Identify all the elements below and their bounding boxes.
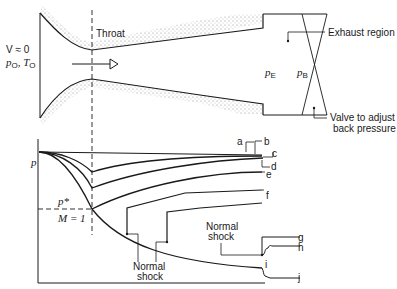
normal-shock-label2-line2: shock — [208, 231, 235, 242]
mach-label: M = 1 — [57, 212, 86, 224]
valve-label-line2: back pressure — [333, 123, 396, 134]
curve-label-h: h — [298, 242, 304, 253]
label-d-leader — [262, 160, 270, 167]
exhaust-label: Exhaust region — [328, 27, 395, 38]
curve-j — [262, 268, 300, 278]
curve-c — [39, 152, 263, 188]
curve-h — [263, 246, 300, 256]
pe-label: pE — [264, 66, 276, 80]
lower-wall-stipple — [40, 79, 263, 125]
curve-f — [127, 190, 262, 234]
pressure-graph: p p* M = 1 Normal shock Normal shock — [30, 136, 304, 283]
pstar-label: p* — [57, 195, 70, 207]
curve-a — [39, 152, 262, 155]
lower-wall — [40, 79, 263, 118]
pb-label: pB — [296, 66, 308, 80]
exhaust-dot — [287, 40, 289, 42]
valve-label-line1: Valve to adjust — [330, 112, 395, 123]
throat-label: Throat — [96, 28, 125, 39]
curve-label-c: c — [272, 148, 277, 159]
curve-supersonic — [39, 152, 262, 268]
exhaust-box — [263, 14, 327, 115]
valve-leader — [314, 108, 327, 118]
shock3-dot — [261, 254, 263, 256]
label-a-leader — [246, 142, 254, 152]
normal-shock-leader-3 — [221, 243, 262, 255]
curve-label-b: b — [264, 136, 270, 147]
y-axis-label: p — [30, 156, 37, 168]
flow-arrow-icon — [72, 59, 118, 69]
curve-label-j: j — [297, 272, 300, 283]
curve-label-a: a — [237, 136, 243, 147]
inlet-velocity-label: V ≈ 0 — [6, 44, 30, 55]
curve-label-f: f — [266, 190, 269, 201]
curve-label-e: e — [266, 169, 272, 180]
nozzle-pressure-diagram: Exhaust region Valve to adjust back pres… — [0, 0, 397, 289]
curve-label-i: i — [265, 259, 267, 270]
label-b-leader — [255, 141, 262, 154]
inlet-p0-label: pO, TO — [5, 56, 36, 70]
normal-shock-leader-1 — [127, 234, 138, 262]
curve-label-d: d — [271, 161, 277, 172]
normal-shock-label-line2: shock — [137, 271, 164, 282]
